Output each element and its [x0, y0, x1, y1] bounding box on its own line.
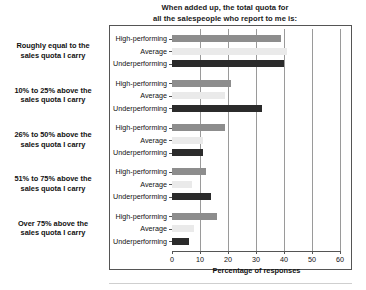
- bar-row: [172, 149, 340, 156]
- category-label-4-line-2: sales quota I carry: [2, 184, 104, 194]
- chart-title-line-1: When added up, the total quota for: [90, 3, 360, 14]
- category-label-5: Over 75% above thesales quota I carry: [2, 219, 104, 238]
- x-axis-title: Percentage of responses: [172, 266, 341, 275]
- bar-row: [172, 92, 340, 99]
- series-tick: [169, 229, 172, 230]
- x-tick-20: [228, 251, 229, 254]
- bar-row: [172, 48, 340, 55]
- bar-4-average: [172, 181, 192, 188]
- chart-title-line-2: all the salespeople who report to me is:: [90, 14, 360, 25]
- series-label-average: Average: [104, 225, 167, 232]
- x-tick-label-0: 0: [161, 255, 183, 264]
- x-tick-label-30: 30: [245, 255, 267, 264]
- category-label-1: Roughly equal to thesales quota I carry: [2, 41, 104, 60]
- series-label-high-performing: High-performing: [104, 35, 167, 42]
- series-tick: [169, 83, 172, 84]
- category-label-4-line-1: 51% to 75% above the: [2, 174, 104, 184]
- series-tick: [169, 153, 172, 154]
- bar-3-underperforming: [172, 149, 203, 156]
- series-tick: [169, 51, 172, 52]
- bar-row: [172, 225, 340, 232]
- x-tick-label-20: 20: [217, 255, 239, 264]
- category-label-1-line-1: Roughly equal to the: [2, 41, 104, 51]
- bar-5-underperforming: [172, 238, 189, 245]
- category-label-5-line-1: Over 75% above the: [2, 219, 104, 229]
- series-label-underperforming: Underperforming: [104, 105, 167, 112]
- bar-2-underperforming: [172, 105, 262, 112]
- bar-row: [172, 168, 340, 175]
- series-label-average: Average: [104, 181, 167, 188]
- category-label-3: 26% to 50% above thesales quota I carry: [2, 130, 104, 149]
- bar-row: [172, 137, 340, 144]
- x-tick-0: [172, 251, 173, 254]
- chart-figure: When added up, the total quota for all t…: [0, 0, 366, 290]
- gridline-60: [340, 29, 341, 251]
- x-tick-label-50: 50: [301, 255, 323, 264]
- category-label-2-line-2: sales quota I carry: [2, 95, 104, 105]
- series-label-high-performing: High-performing: [104, 80, 167, 87]
- series-label-high-performing: High-performing: [104, 168, 167, 175]
- series-label-high-performing: High-performing: [104, 213, 167, 220]
- bar-1-underperforming: [172, 60, 284, 67]
- series-tick: [169, 140, 172, 141]
- series-label-high-performing: High-performing: [104, 124, 167, 131]
- bar-row: [172, 193, 340, 200]
- series-tick: [169, 96, 172, 97]
- series-tick: [169, 184, 172, 185]
- x-tick-30: [256, 251, 257, 254]
- figure-bottom-rule: [109, 283, 352, 284]
- category-label-3-line-1: 26% to 50% above the: [2, 130, 104, 140]
- series-label-underperforming: Underperforming: [104, 60, 167, 67]
- bar-row: [172, 181, 340, 188]
- category-label-2-line-1: 10% to 25% above the: [2, 86, 104, 96]
- series-label-underperforming: Underperforming: [104, 149, 167, 156]
- bar-row: [172, 238, 340, 245]
- series-label-average: Average: [104, 92, 167, 99]
- category-label-1-line-2: sales quota I carry: [2, 51, 104, 61]
- series-label-average: Average: [104, 48, 167, 55]
- bar-2-average: [172, 92, 225, 99]
- x-tick-label-60: 60: [329, 255, 351, 264]
- series-label-underperforming: Underperforming: [104, 193, 167, 200]
- x-tick-10: [200, 251, 201, 254]
- bar-1-high-performing: [172, 35, 281, 42]
- category-label-5-line-2: sales quota I carry: [2, 228, 104, 238]
- bar-5-average: [172, 225, 194, 232]
- bar-5-high-performing: [172, 213, 217, 220]
- bar-3-high-performing: [172, 124, 225, 131]
- category-label-3-line-2: sales quota I carry: [2, 140, 104, 150]
- plot-area: [172, 29, 340, 251]
- bar-row: [172, 35, 340, 42]
- series-tick: [169, 197, 172, 198]
- bar-1-average: [172, 48, 287, 55]
- series-tick: [169, 39, 172, 40]
- category-label-4: 51% to 75% above thesales quota I carry: [2, 174, 104, 193]
- series-tick: [169, 241, 172, 242]
- bar-3-average: [172, 137, 203, 144]
- category-label-2: 10% to 25% above thesales quota I carry: [2, 86, 104, 105]
- series-label-underperforming: Underperforming: [104, 238, 167, 245]
- series-tick: [169, 172, 172, 173]
- x-tick-label-40: 40: [273, 255, 295, 264]
- bar-row: [172, 80, 340, 87]
- series-label-average: Average: [104, 137, 167, 144]
- bar-row: [172, 60, 340, 67]
- chart-title: When added up, the total quota for all t…: [90, 3, 360, 24]
- x-tick-40: [284, 251, 285, 254]
- series-tick: [169, 128, 172, 129]
- series-tick: [169, 216, 172, 217]
- x-tick-50: [312, 251, 313, 254]
- series-tick: [169, 108, 172, 109]
- bar-row: [172, 213, 340, 220]
- bar-4-underperforming: [172, 193, 211, 200]
- bar-4-high-performing: [172, 168, 206, 175]
- x-tick-60: [340, 251, 341, 254]
- series-tick: [169, 64, 172, 65]
- bar-row: [172, 105, 340, 112]
- bar-2-high-performing: [172, 80, 231, 87]
- bar-row: [172, 124, 340, 131]
- x-tick-label-10: 10: [189, 255, 211, 264]
